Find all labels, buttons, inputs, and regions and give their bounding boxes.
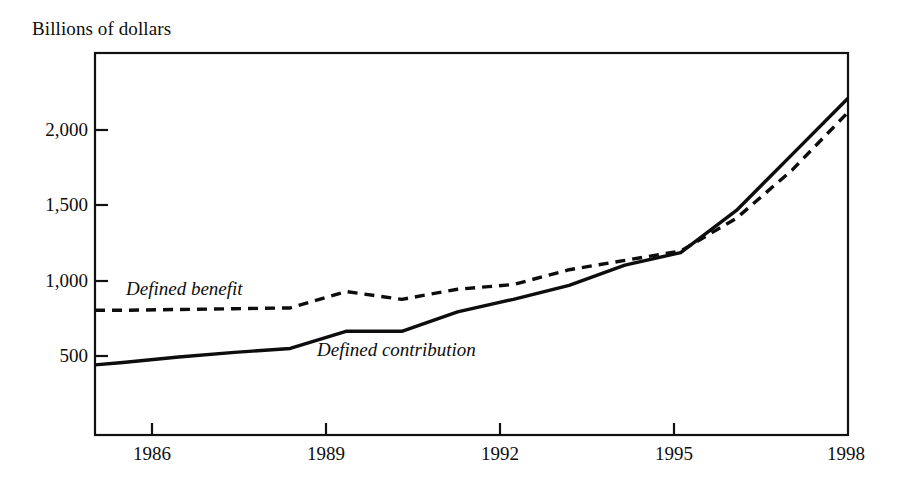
series-label-defined-contribution: Defined contribution: [317, 339, 476, 361]
series-label-defined-benefit: Defined benefit: [126, 278, 243, 300]
x-axis-tick-labels: 1986 1989 1992 1995 1998: [0, 0, 900, 497]
chart-figure: Billions of dollars 2,000 1,500 1,000 50…: [0, 0, 900, 497]
x-tick-label-1986: 1986: [133, 443, 171, 465]
x-tick-label-1992: 1992: [481, 443, 519, 465]
x-tick-label-1995: 1995: [655, 443, 693, 465]
x-tick-label-1989: 1989: [307, 443, 345, 465]
x-tick-label-1998: 1998: [827, 443, 865, 465]
